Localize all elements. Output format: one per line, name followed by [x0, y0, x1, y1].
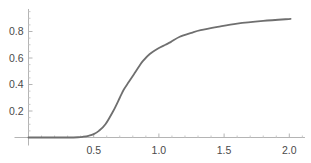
y-tick-label: 0.4	[9, 78, 24, 90]
y-tick-label: 0.6	[9, 52, 24, 64]
x-tick-label: 1.5	[217, 144, 232, 156]
chart: 0.51.01.52.0 0.20.40.60.8	[0, 0, 311, 163]
x-tick-label: 0.5	[86, 144, 101, 156]
x-tick-label: 1.0	[152, 144, 167, 156]
y-tick-label: 0.8	[9, 25, 24, 37]
series-group	[29, 19, 291, 138]
axes	[15, 9, 305, 146]
x-tick-label: 2.0	[282, 144, 297, 156]
y-tick-label: 0.2	[9, 105, 24, 117]
series-line	[29, 19, 291, 138]
